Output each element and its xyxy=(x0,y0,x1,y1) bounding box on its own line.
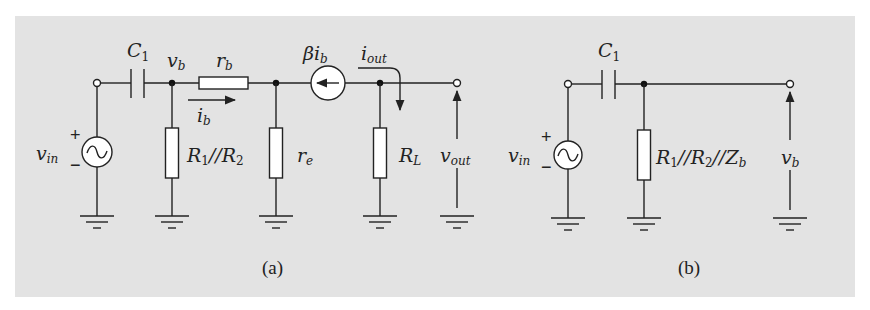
resistor-equivalent-label: R1//R2//Zb xyxy=(655,146,746,170)
source-minus-label: − xyxy=(70,155,81,175)
resistor-r1-r2-label: R1//R2 xyxy=(186,144,244,168)
dependent-current-source-icon xyxy=(311,66,345,100)
source-plus-label: + xyxy=(541,127,552,147)
resistor-equivalent-icon xyxy=(638,130,651,180)
resistor-re-icon xyxy=(270,128,283,178)
resistor-rl-icon xyxy=(374,128,387,178)
input-terminal-b xyxy=(565,81,572,88)
output-terminal-b xyxy=(787,81,794,88)
resistor-r1-r2-icon xyxy=(166,128,179,178)
resistor-rb-icon xyxy=(199,77,248,89)
output-terminal-a xyxy=(454,80,461,87)
caption-a: (a) xyxy=(262,257,283,279)
source-plus-label: + xyxy=(70,125,81,145)
caption-b: (b) xyxy=(678,257,700,279)
source-minus-label: − xyxy=(541,157,552,177)
ac-source-icon xyxy=(82,137,112,167)
ac-source-icon xyxy=(554,141,582,169)
input-terminal-a xyxy=(94,80,101,87)
circuit-figure: + − vin C1 vb rb ib R1//R2 re xyxy=(0,0,870,310)
